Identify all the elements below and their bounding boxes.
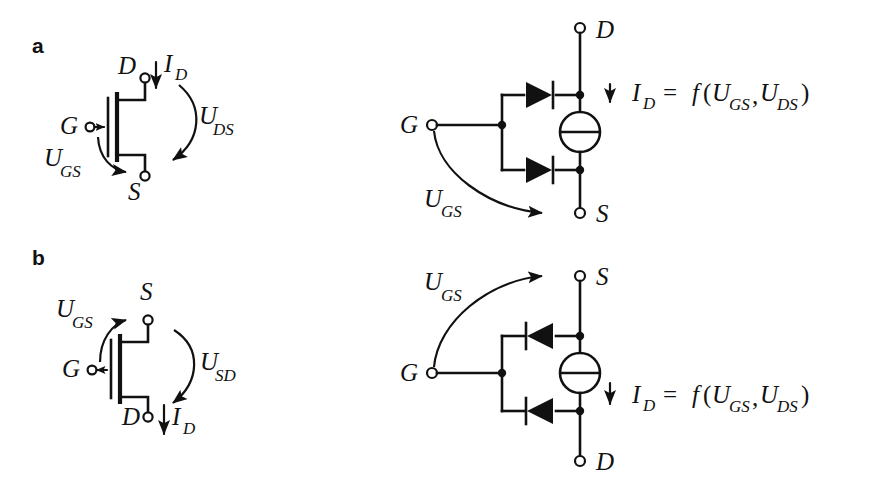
- symbol-b-source-terminal[interactable]: [143, 315, 152, 324]
- symbol-b-gate-terminal[interactable]: [88, 366, 97, 375]
- symbol-b-source-label: S: [140, 278, 153, 305]
- symbol-a-gate-label: G: [60, 112, 78, 139]
- equation-a-comma: ,: [752, 82, 758, 109]
- equiv-b-source-label: S: [596, 263, 609, 290]
- equiv-a-source-terminal[interactable]: [575, 208, 585, 218]
- symbol-b-ugs-sub: GS: [72, 313, 93, 332]
- equiv-b-gate-label: G: [400, 359, 418, 386]
- figure-canvas: a D G S I D U: [0, 0, 872, 494]
- symbol-a-uds-sub: DS: [212, 120, 234, 139]
- equation-b-func: f: [692, 381, 702, 408]
- equiv-b-ugs-sub: GS: [441, 286, 462, 305]
- equiv-b-gate-node: [498, 369, 506, 377]
- equation-a-rparen: ): [801, 79, 809, 107]
- symbol-b-usd-sub: SD: [215, 366, 237, 385]
- symbol-a-drain-terminal[interactable]: [140, 73, 149, 82]
- equiv-a-drain-label: D: [595, 16, 614, 43]
- equiv-b-lower-diode-body: [527, 398, 553, 424]
- equiv-b-source-terminal[interactable]: [575, 271, 585, 281]
- equation-a-arg1-sub: GS: [729, 95, 750, 114]
- figure-root: a D G S I D U: [0, 0, 872, 494]
- panel-tag-a: a: [32, 34, 44, 57]
- equation-a-lhs-sub: D: [642, 94, 656, 113]
- equiv-b-drain-label: D: [595, 448, 614, 475]
- equiv-a-source-label: S: [596, 200, 609, 227]
- equation-b-arg2-sub: DS: [776, 397, 798, 416]
- symbol-a-source-label: S: [128, 178, 141, 205]
- symbol-a-id-var: I: [163, 50, 174, 77]
- equiv-a-equation: I D = f ( U GS , U DS ): [631, 79, 809, 114]
- symbol-a-uds-arrow: [173, 85, 196, 160]
- symbol-a-gate-terminal[interactable]: [86, 123, 95, 132]
- equation-b-equals: =: [663, 381, 677, 408]
- equation-a-arg2-sub: DS: [776, 95, 798, 114]
- equation-a-equals: =: [663, 79, 677, 106]
- panel-b-symbol: S G D I D U SD U GS: [56, 278, 237, 438]
- equiv-a-gate-label: G: [400, 111, 418, 138]
- equation-a-func: f: [692, 79, 702, 106]
- equiv-a-ugs-arrow: [434, 131, 542, 213]
- symbol-a-drain-label: D: [117, 52, 136, 79]
- equiv-b-gate-terminal[interactable]: [427, 368, 437, 378]
- symbol-a-ugs-sub: GS: [60, 162, 81, 181]
- equation-b-comma: ,: [752, 384, 758, 411]
- equiv-a-ugs-sub: GS: [441, 202, 462, 221]
- equation-a-lparen: (: [703, 79, 711, 107]
- equiv-b-upper-diode-body: [527, 323, 553, 349]
- symbol-b-id-var: I: [171, 403, 182, 430]
- symbol-b-drain-terminal[interactable]: [143, 412, 152, 421]
- equation-b-lhs-sub: D: [642, 396, 656, 415]
- equiv-a-gate-node: [498, 121, 506, 129]
- equation-b-lparen: (: [703, 381, 711, 409]
- equation-b-lhs-var: I: [631, 381, 642, 408]
- equiv-a-gate-terminal[interactable]: [427, 120, 437, 130]
- equiv-a-drain-terminal[interactable]: [575, 23, 585, 33]
- equation-b-rparen: ): [801, 381, 809, 409]
- panel-a-symbol: D G S I D U DS: [44, 50, 234, 205]
- equation-a-lhs-var: I: [631, 79, 642, 106]
- symbol-a-source-wire: [117, 155, 145, 172]
- equiv-a-upper-diode-body: [526, 82, 552, 108]
- symbol-b-gate-label: G: [62, 355, 80, 382]
- symbol-a-drain-wire: [117, 83, 145, 100]
- equation-b-arg1-sub: GS: [729, 397, 750, 416]
- equiv-b-drain-terminal[interactable]: [575, 456, 585, 466]
- symbol-a-id-sub: D: [174, 65, 188, 84]
- symbol-b-drain-label: D: [121, 403, 140, 430]
- equiv-a-lower-diode-body: [526, 157, 552, 183]
- equiv-b-equation: I D = f ( U GS , U DS ): [631, 381, 809, 416]
- symbol-b-source-wire: [120, 325, 148, 342]
- symbol-b-usd-arrow: [173, 330, 194, 403]
- symbol-b-id-sub: D: [182, 419, 196, 438]
- symbol-a-source-terminal[interactable]: [140, 171, 149, 180]
- panel-a-equivalent: D G: [400, 16, 809, 227]
- panel-tag-b: b: [32, 246, 45, 269]
- panel-b-equivalent: S G: [400, 263, 809, 475]
